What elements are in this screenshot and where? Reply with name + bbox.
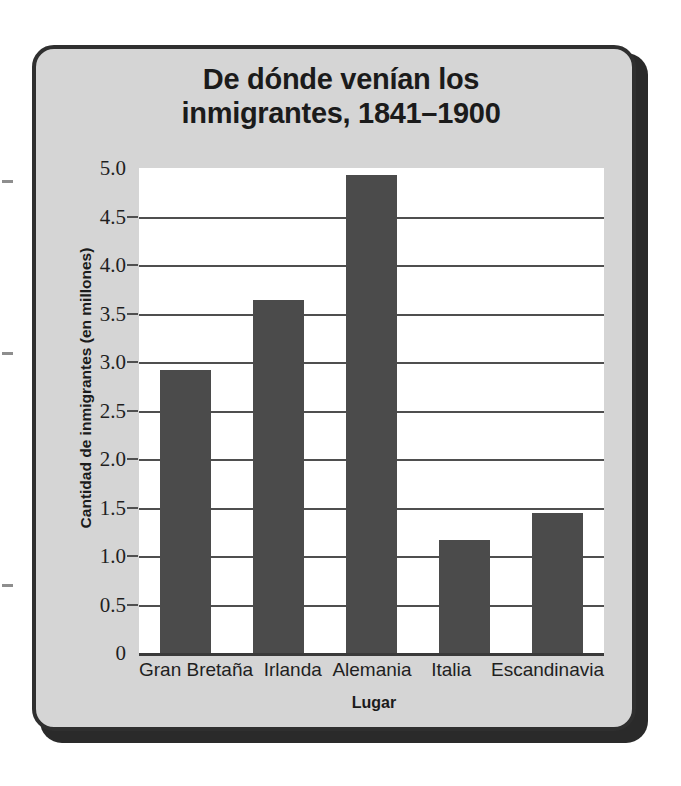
page-margin-tick <box>2 180 13 183</box>
y-axis-tick-label: 1.0 <box>100 544 126 569</box>
y-axis-tick-label: 1.5 <box>100 495 126 520</box>
y-axis-tick-label: 4.0 <box>100 253 126 278</box>
y-axis-tick-mark <box>127 507 138 509</box>
bar <box>253 300 304 653</box>
y-axis-tick-mark <box>127 264 138 266</box>
chart-title-line-2: inmigrantes, 1841–1900 <box>106 97 576 131</box>
bar <box>439 540 490 653</box>
y-axis-tick-mark <box>127 361 138 363</box>
page-margin-tick <box>2 352 13 355</box>
plot-area: 5.04.54.03.53.02.52.01.51.00.50 Gran Bre… <box>139 168 604 656</box>
y-axis-tick-label: 4.5 <box>100 204 126 229</box>
y-axis-tick-label: 3.0 <box>100 350 126 375</box>
bar-slot <box>139 168 232 653</box>
x-axis-tick-label: Alemania <box>332 659 411 681</box>
x-axis-tick-label: Irlanda <box>253 659 332 681</box>
bar-slot <box>232 168 325 653</box>
y-axis-tick-label: 2.5 <box>100 398 126 423</box>
y-axis-tick-label: 0 <box>116 641 127 666</box>
y-axis-tick-mark <box>127 313 138 315</box>
y-axis-tick-mark <box>127 458 138 460</box>
y-axis-tick-mark <box>127 410 138 412</box>
y-axis-tick-label: 2.0 <box>100 447 126 472</box>
bar <box>160 370 211 653</box>
y-axis-tick-label: 3.5 <box>100 301 126 326</box>
x-axis-tick-label: Escandinavia <box>491 659 604 681</box>
bar <box>532 513 583 653</box>
bar-slot <box>325 168 418 653</box>
bar <box>346 175 397 653</box>
bar-slot <box>511 168 604 653</box>
x-axis-title: Lugar <box>134 694 614 712</box>
y-axis-tick-mark <box>127 555 138 557</box>
bars-group <box>139 168 604 653</box>
x-axis-tick-label: Italia <box>412 659 491 681</box>
bar-slot <box>418 168 511 653</box>
chart-title-line-1: De dónde venían los <box>106 63 576 97</box>
chart-title: De dónde venían los inmigrantes, 1841–19… <box>106 63 576 131</box>
y-axis-tick-label: 0.5 <box>100 592 126 617</box>
y-axis-title: Cantidad de inmigrantes (en millones) <box>77 178 95 598</box>
y-axis-tick-label: 5.0 <box>100 156 126 181</box>
page-margin-tick <box>2 584 13 587</box>
bar-chart-figure: De dónde venían los inmigrantes, 1841–19… <box>32 45 636 731</box>
y-axis-tick-mark <box>127 216 138 218</box>
x-axis-tick-label: Gran Bretaña <box>139 659 253 681</box>
x-axis-tick-labels: Gran BretañaIrlandaAlemaniaItaliaEscandi… <box>139 659 604 681</box>
y-axis-tick-mark <box>127 604 138 606</box>
